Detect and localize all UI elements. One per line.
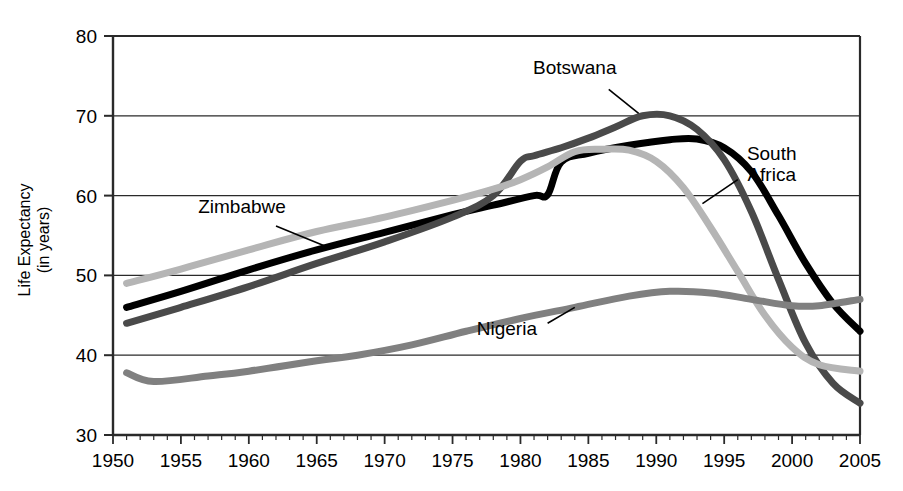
- y-tick-label: 60: [76, 186, 97, 207]
- x-tick-label: 1965: [296, 450, 338, 471]
- x-tick-label: 1955: [160, 450, 202, 471]
- y-axis-title-line2: (in years): [35, 207, 52, 274]
- x-tick-label: 1960: [228, 450, 270, 471]
- x-tick-label: 1950: [92, 450, 134, 471]
- series-label-botswana: Botswana: [533, 57, 617, 78]
- x-tick-label: 2000: [771, 450, 813, 471]
- x-tick-label: 1995: [703, 450, 745, 471]
- y-tick-label: 80: [76, 26, 97, 47]
- x-tick-label: 1975: [431, 450, 473, 471]
- y-tick-label: 40: [76, 345, 97, 366]
- series-label-nigeria: Nigeria: [477, 318, 538, 339]
- x-tick-label: 1970: [363, 450, 405, 471]
- x-tick-label: 2005: [839, 450, 881, 471]
- series-label-south-africa: Africa: [747, 164, 796, 185]
- y-tick-label: 30: [76, 425, 97, 446]
- x-tick-label: 1990: [635, 450, 677, 471]
- series-label-south-africa: South: [747, 143, 797, 164]
- series-label-zimbabwe: Zimbabwe: [198, 196, 286, 217]
- y-tick-label: 70: [76, 106, 97, 127]
- y-axis-title-line1: Life Expectancy: [16, 184, 33, 297]
- life-expectancy-chart: 304050607080 195019551960196519701975198…: [0, 0, 903, 491]
- x-tick-label: 1980: [499, 450, 541, 471]
- x-tick-label: 1985: [567, 450, 609, 471]
- chart-canvas: 304050607080 195019551960196519701975198…: [0, 0, 903, 491]
- y-tick-label: 50: [76, 265, 97, 286]
